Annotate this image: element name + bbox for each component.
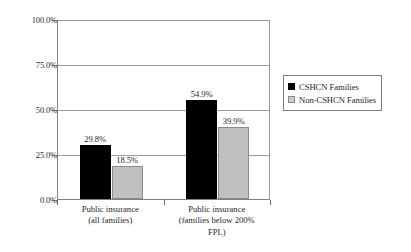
legend-label: CSHCN Families: [299, 82, 359, 92]
x-category-label: Public insurance (families below 200% FP…: [154, 204, 281, 238]
y-tick-label: 25.0%: [5, 151, 57, 160]
legend-label: Non-CSHCN Families: [299, 95, 376, 105]
plot-area: [57, 20, 270, 200]
bar: [186, 100, 217, 199]
gray-square-icon: [288, 96, 295, 103]
black-square-icon: [288, 83, 295, 90]
legend-item-cshcn[interactable]: CSHCN Families: [288, 80, 376, 93]
y-tick-label: 75.0%: [5, 61, 57, 70]
legend: CSHCN Families Non-CSHCN Families: [283, 75, 382, 111]
y-tick-label: 100.0%: [5, 16, 57, 25]
bar: [80, 145, 111, 199]
legend-item-non-cshcn[interactable]: Non-CSHCN Families: [288, 93, 376, 106]
bar: [218, 127, 249, 199]
bar-value-label: 29.8%: [76, 134, 115, 144]
bar-value-label: 54.9%: [182, 89, 221, 99]
gridline: [58, 110, 269, 111]
bar-value-label: 39.9%: [214, 116, 253, 126]
bar-chart: 100.0%75.0%50.0%25.0%0.0% Public insuran…: [0, 0, 411, 252]
y-tick-label: 50.0%: [5, 106, 57, 115]
gridline: [58, 65, 269, 66]
bar-value-label: 18.5%: [108, 155, 147, 165]
bar: [112, 166, 143, 199]
x-tick-mark: [57, 200, 58, 205]
